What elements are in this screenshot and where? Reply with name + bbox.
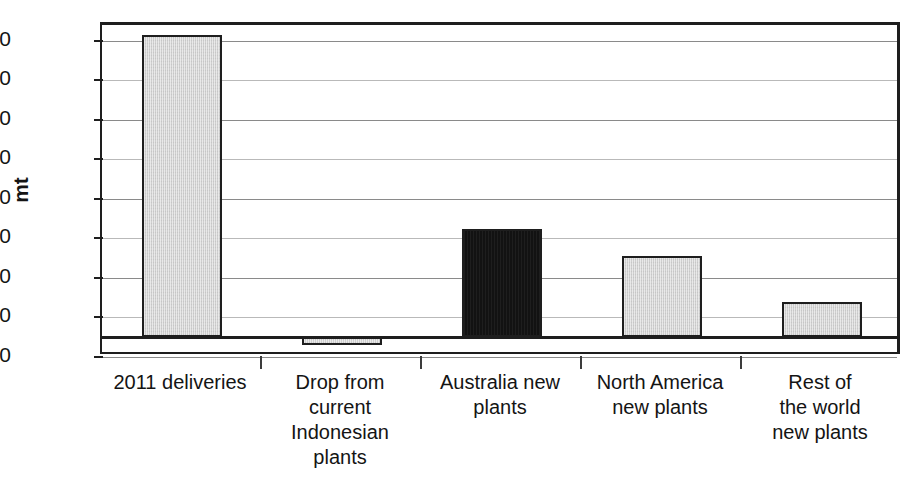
y-tick-mark — [94, 237, 103, 239]
x-axis-separator — [420, 356, 422, 369]
plot-inner — [102, 25, 897, 352]
y-tick-mark — [94, 277, 103, 279]
x-axis-label-line: Australia new — [420, 370, 580, 395]
bar-chart: mt 1501301109070503010–10 2011 deliverie… — [0, 0, 919, 489]
plot-area — [100, 22, 900, 354]
x-axis-label-line: Drop from — [260, 370, 420, 395]
y-tick-label: 130 — [0, 67, 11, 88]
y-tick-label: 150 — [0, 27, 11, 48]
y-tick-label: 70 — [0, 185, 11, 206]
y-tick-label: 90 — [0, 146, 11, 167]
bar — [142, 35, 222, 337]
y-tick-label: 50 — [0, 225, 11, 246]
y-tick-label: –10 — [0, 344, 11, 365]
x-axis-label-line: the world — [740, 395, 900, 420]
x-axis-category-label: Australia newplants — [420, 370, 580, 420]
x-axis-category-label: Rest ofthe worldnew plants — [740, 370, 900, 445]
gridline — [102, 357, 897, 358]
y-tick-mark — [94, 316, 103, 318]
bar — [622, 256, 702, 337]
y-tick-mark — [94, 119, 103, 121]
x-axis-label-line: current — [260, 395, 420, 420]
x-axis-label-line: new plants — [580, 395, 740, 420]
x-axis-label-line: plants — [260, 445, 420, 470]
zero-baseline — [102, 336, 897, 339]
x-axis-separator — [580, 356, 582, 369]
y-tick-mark — [94, 79, 103, 81]
x-axis-label-line: plants — [420, 395, 580, 420]
x-axis-category-label: North Americanew plants — [580, 370, 740, 420]
y-tick-mark — [94, 40, 103, 42]
x-axis-label-line: North America — [580, 370, 740, 395]
y-tick-mark — [94, 198, 103, 200]
y-axis-title-text: mt — [9, 177, 33, 203]
x-axis-category-label: Drop fromcurrentIndonesianplants — [260, 370, 420, 470]
x-axis-category-label: 2011 deliveries — [100, 370, 260, 395]
x-axis-label-line: 2011 deliveries — [100, 370, 260, 395]
y-tick-mark — [94, 158, 103, 160]
x-axis-label-line: Rest of — [740, 370, 900, 395]
y-tick-mark — [94, 356, 103, 358]
x-axis-separator — [740, 356, 742, 369]
y-tick-label: 10 — [0, 304, 11, 325]
y-tick-label: 30 — [0, 264, 11, 285]
x-axis-label-line: Indonesian — [260, 420, 420, 445]
y-tick-label: 110 — [0, 106, 11, 127]
bar — [782, 302, 862, 338]
x-axis-separator — [260, 356, 262, 369]
x-axis-label-line: new plants — [740, 420, 900, 445]
bar — [462, 229, 542, 338]
